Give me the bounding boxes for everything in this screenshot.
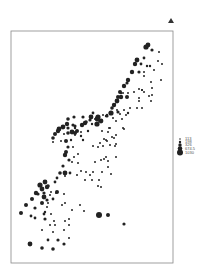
data-point bbox=[58, 171, 62, 175]
data-point bbox=[101, 130, 103, 132]
data-point bbox=[106, 114, 108, 116]
data-point bbox=[137, 70, 140, 73]
data-point bbox=[76, 174, 78, 176]
data-point bbox=[125, 81, 128, 84]
scatter-chart: 113198326674.51030 bbox=[0, 0, 210, 277]
data-point bbox=[19, 211, 23, 215]
data-point bbox=[53, 132, 57, 136]
data-point bbox=[42, 191, 45, 194]
data-point bbox=[73, 156, 75, 158]
data-point bbox=[63, 193, 65, 195]
data-point bbox=[63, 229, 65, 231]
data-point bbox=[52, 231, 54, 233]
data-point bbox=[40, 201, 44, 205]
data-point bbox=[68, 237, 70, 239]
data-point bbox=[103, 138, 105, 140]
data-point bbox=[51, 136, 55, 140]
data-point bbox=[129, 107, 131, 109]
data-point bbox=[71, 209, 73, 211]
data-point bbox=[138, 88, 140, 90]
data-point bbox=[122, 222, 125, 225]
data-point bbox=[56, 238, 59, 241]
data-point bbox=[46, 206, 48, 208]
data-point bbox=[112, 117, 114, 119]
data-point bbox=[138, 100, 140, 102]
triangle-marker-icon bbox=[168, 18, 174, 23]
data-point bbox=[110, 106, 114, 110]
data-point bbox=[122, 92, 124, 94]
data-point bbox=[41, 229, 43, 231]
data-point bbox=[64, 139, 68, 143]
data-point bbox=[80, 131, 82, 133]
data-point bbox=[79, 204, 81, 206]
data-point bbox=[95, 114, 100, 119]
data-point bbox=[115, 99, 120, 104]
data-point bbox=[74, 127, 76, 129]
data-point bbox=[161, 63, 163, 65]
data-point bbox=[157, 60, 159, 62]
data-point bbox=[40, 187, 45, 192]
data-point bbox=[101, 171, 103, 173]
data-point bbox=[113, 137, 115, 139]
data-point bbox=[107, 166, 109, 168]
data-point bbox=[130, 70, 134, 74]
data-point bbox=[138, 97, 140, 99]
data-point bbox=[100, 186, 102, 188]
data-point bbox=[63, 171, 68, 176]
data-point bbox=[33, 206, 36, 209]
data-point bbox=[103, 158, 105, 160]
data-point bbox=[75, 129, 79, 133]
data-point bbox=[149, 65, 151, 67]
data-point bbox=[150, 81, 152, 83]
data-point bbox=[94, 161, 96, 163]
data-point bbox=[106, 213, 110, 217]
data-point bbox=[46, 184, 50, 188]
data-point bbox=[51, 247, 55, 251]
data-point bbox=[53, 220, 55, 222]
data-point bbox=[92, 171, 94, 173]
data-point bbox=[77, 162, 79, 164]
data-point bbox=[115, 143, 117, 145]
data-point bbox=[133, 91, 135, 93]
data-point bbox=[71, 161, 73, 163]
data-point bbox=[64, 220, 66, 222]
data-point bbox=[80, 123, 84, 127]
data-point bbox=[125, 95, 129, 99]
data-point bbox=[47, 202, 49, 204]
data-point bbox=[115, 120, 117, 122]
data-point bbox=[96, 212, 102, 218]
data-point bbox=[34, 191, 38, 195]
data-point bbox=[110, 173, 112, 175]
data-point bbox=[148, 95, 150, 97]
data-point bbox=[55, 192, 57, 194]
data-point bbox=[141, 89, 143, 91]
data-point bbox=[80, 135, 82, 137]
data-point bbox=[102, 145, 104, 147]
legend-symbol bbox=[177, 150, 183, 156]
data-point bbox=[49, 194, 51, 196]
data-point bbox=[125, 114, 127, 116]
data-point bbox=[91, 179, 93, 181]
data-point bbox=[56, 177, 59, 180]
data-point bbox=[127, 112, 129, 114]
data-point bbox=[143, 91, 145, 93]
data-point bbox=[84, 179, 86, 181]
data-point bbox=[94, 121, 99, 126]
data-point bbox=[30, 197, 34, 201]
plot-frame bbox=[11, 31, 173, 263]
data-point bbox=[52, 141, 54, 143]
data-point bbox=[143, 57, 146, 60]
data-point bbox=[43, 217, 46, 220]
data-points bbox=[19, 43, 163, 251]
data-point bbox=[121, 118, 123, 120]
data-point bbox=[84, 120, 88, 124]
data-point bbox=[107, 160, 109, 162]
data-point bbox=[106, 140, 108, 142]
data-point bbox=[105, 156, 107, 158]
data-point bbox=[54, 224, 56, 226]
data-point bbox=[49, 224, 51, 226]
data-point bbox=[43, 180, 48, 185]
data-point bbox=[158, 51, 160, 53]
data-point bbox=[47, 239, 50, 242]
data-point bbox=[63, 133, 65, 135]
